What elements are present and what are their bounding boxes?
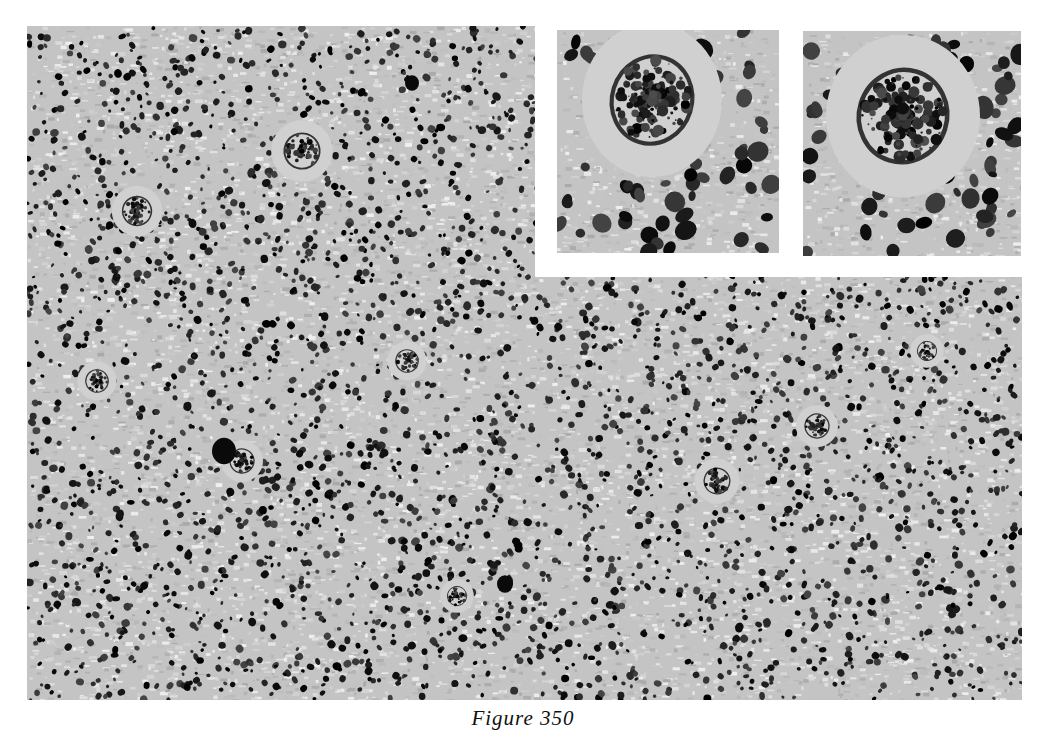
inset-right-texture bbox=[803, 31, 1021, 256]
inset-right bbox=[803, 31, 1021, 256]
inset-left bbox=[557, 30, 779, 253]
figure-caption: Figure 350 bbox=[0, 706, 1046, 731]
inset-left-texture bbox=[557, 30, 779, 253]
